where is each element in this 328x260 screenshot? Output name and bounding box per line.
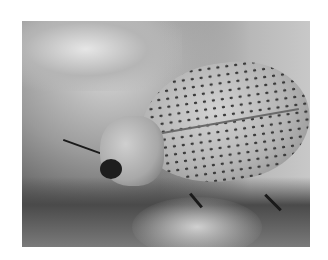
beetle-photo — [22, 21, 310, 247]
fuzzy-plant-top — [22, 21, 182, 91]
beetle-head — [100, 159, 122, 179]
beetle-antenna — [63, 139, 103, 155]
